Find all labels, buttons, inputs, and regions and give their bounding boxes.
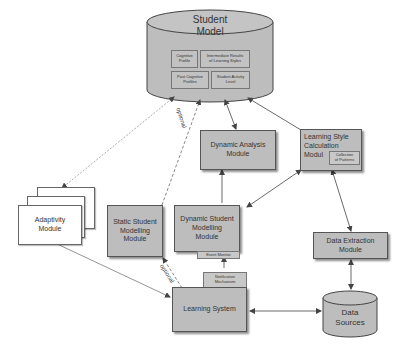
dynamic-analysis-module[interactable]: Dynamic AnalysisModule: [200, 130, 276, 170]
past-cognitive-profiles-box: Past CognitiveProfiles: [171, 71, 209, 89]
arrow-lsc-data-extraction: [332, 170, 351, 231]
student-model-title-line2: Model: [175, 26, 245, 38]
cognitive-profile-box: CognitiveProfile: [171, 50, 198, 68]
data-sources-label: Data Sources: [325, 308, 375, 327]
arrow-student-model-adaptivity: [62, 97, 174, 188]
event-monitor-box: Event Monitor: [197, 251, 240, 259]
student-activity-level-box: Student ActivityLevel: [211, 71, 250, 89]
arrow-lsc-dynmod: [247, 170, 301, 207]
collection-of-patterns-box: Collectionof Patterns: [329, 151, 360, 165]
arrow-lsc-to-student-model: [248, 98, 301, 130]
student-model-title: Student Model: [175, 14, 245, 37]
data-extraction-module[interactable]: Data ExtractionModule: [313, 232, 388, 259]
notification-mechanism-box: NotificationMechanism: [203, 272, 247, 288]
static-student-modelling-module[interactable]: Static StudentModellingModule: [107, 205, 163, 257]
student-model-title-line1: Student: [175, 14, 245, 26]
dynamic-student-modelling-module[interactable]: Dynamic StudentModellingModule: [174, 205, 240, 252]
adaptivity-module[interactable]: AdaptivityModule: [18, 205, 82, 245]
learning-system[interactable]: Learning System: [172, 287, 247, 332]
arrow-student-model-dynamic-analysis: [225, 100, 236, 129]
intermediate-results-box: Intermediate Resultsof Learning Styles: [200, 50, 250, 68]
